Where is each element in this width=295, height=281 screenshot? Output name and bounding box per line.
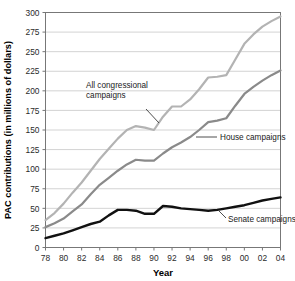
series-label-senate: Senate campaigns (228, 215, 295, 224)
y-tick-label: 50 (30, 204, 40, 214)
y-tick-label: 225 (26, 66, 40, 76)
x-tick-label: 92 (167, 253, 177, 263)
y-axis-title: PAC contributions (in millions of dollar… (3, 41, 13, 219)
y-tick-label: 75 (30, 184, 40, 194)
series-label-all-congressional-line2: campaigns (86, 91, 126, 100)
y-tick-label: 150 (26, 125, 40, 135)
x-tick-label: 98 (222, 253, 232, 263)
y-tick-label: 300 (26, 8, 40, 18)
y-tick-label: 175 (26, 106, 40, 116)
series-label-all-congressional-line1: All congressional (86, 81, 148, 90)
x-tick-label: 02 (258, 253, 268, 263)
x-tick-label: 86 (113, 253, 123, 263)
x-tick-label: 88 (131, 253, 141, 263)
pac-contributions-line-chart: 0255075100125150175200225250275300 78808… (0, 0, 295, 281)
x-tick-label: 82 (77, 253, 87, 263)
series-label-house: House campaigns (220, 133, 286, 142)
y-tick-label: 125 (26, 145, 40, 155)
x-tick-label: 80 (59, 253, 69, 263)
y-tick-label: 25 (30, 223, 40, 233)
y-tick-label: 275 (26, 27, 40, 37)
y-tick-label: 100 (26, 164, 40, 174)
x-tick-label: 78 (41, 253, 51, 263)
x-tick-label: 04 (276, 253, 286, 263)
y-tick-label: 200 (26, 86, 40, 96)
x-tick-label: 94 (185, 253, 195, 263)
x-axis-title: Year (153, 267, 173, 278)
chart-canvas: 0255075100125150175200225250275300 78808… (0, 0, 295, 281)
y-tick-label: 0 (35, 243, 40, 253)
y-tick-label: 250 (26, 47, 40, 57)
x-tick-label: 00 (240, 253, 250, 263)
x-tick-label: 96 (204, 253, 214, 263)
x-tick-label: 90 (149, 253, 159, 263)
x-tick-label: 84 (95, 253, 105, 263)
